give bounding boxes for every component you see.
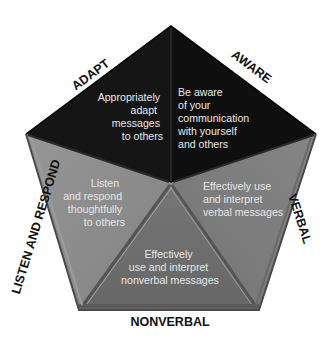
aware-line-1: Be aware xyxy=(178,86,223,98)
aware-line-2: of your xyxy=(178,99,211,111)
adapt-line-4: to others xyxy=(122,130,163,142)
edge-label-nonverbal: NONVERBAL xyxy=(130,315,210,329)
communication-pentagon-diagram: Appropriately adapt messages to others B… xyxy=(0,0,334,338)
verbal-line-2: and interpret xyxy=(203,193,263,205)
aware-line-3: communication xyxy=(178,112,249,124)
verbal-line-1: Effectively use xyxy=(203,180,271,192)
listen-line-3: thoughtfully xyxy=(68,203,123,215)
listen-line-4: to others xyxy=(84,216,125,228)
adapt-line-1: Appropriately xyxy=(98,91,161,103)
aware-line-5: and others xyxy=(178,138,228,150)
listen-line-1: Listen xyxy=(91,177,119,189)
adapt-line-2: adapt xyxy=(131,104,158,116)
aware-line-4: with yourself xyxy=(177,125,237,137)
edge-label-verbal: VERBAL xyxy=(285,192,314,246)
nonverbal-line-2: use and interpret xyxy=(129,261,209,273)
adapt-line-3: messages xyxy=(112,117,160,129)
listen-line-2: and respond xyxy=(63,190,122,202)
verbal-line-3: verbal messages xyxy=(203,206,283,218)
nonverbal-line-1: Effectively xyxy=(144,248,193,260)
nonverbal-line-3: nonverbal messages xyxy=(121,274,219,286)
